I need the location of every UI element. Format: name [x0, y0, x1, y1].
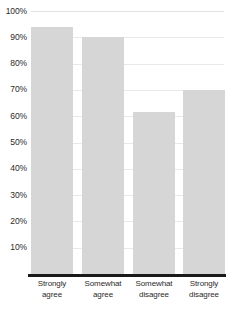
- x-tick-label-line1: Strongly: [24, 279, 80, 290]
- x-tick-label-line1: Strongly: [176, 279, 232, 290]
- y-tick-label: 50%: [0, 138, 27, 147]
- y-tick-label: 80%: [0, 59, 27, 68]
- bar-chart: 100% 90% 80% 70% 60% 50% 40% 30% 20% 10%…: [0, 0, 235, 310]
- x-axis-labels: Strongly agree Somewhat agree Somewhat d…: [31, 279, 224, 307]
- y-tick-label: 60%: [0, 112, 27, 121]
- x-tick-label-line1: Somewhat: [75, 279, 131, 290]
- y-axis-labels: 100% 90% 80% 70% 60% 50% 40% 30% 20% 10%: [0, 0, 27, 310]
- y-tick-label: 30%: [0, 191, 27, 200]
- y-tick-label: 20%: [0, 217, 27, 226]
- x-tick-label-line2: agree: [24, 290, 80, 301]
- bar-strongly-disagree: [183, 90, 225, 274]
- bar-somewhat-agree: [82, 37, 124, 274]
- bar-somewhat-disagree: [133, 112, 175, 274]
- x-tick-label-line2: disagree: [176, 290, 232, 301]
- x-tick-label-strongly-agree: Strongly agree: [24, 279, 80, 300]
- x-axis-line: [28, 274, 226, 277]
- x-tick-label-somewhat-agree: Somewhat agree: [75, 279, 131, 300]
- y-tick-label: 10%: [0, 243, 27, 252]
- y-tick-label: 70%: [0, 85, 27, 94]
- x-tick-label-line2: agree: [75, 290, 131, 301]
- x-tick-label-line2: disagree: [126, 290, 182, 301]
- x-tick-label-line1: Somewhat: [126, 279, 182, 290]
- y-tick-label: 40%: [0, 164, 27, 173]
- x-tick-label-strongly-disagree: Strongly disagree: [176, 279, 232, 300]
- y-tick-label: 90%: [0, 33, 27, 42]
- bar-strongly-agree: [31, 27, 73, 274]
- y-tick-label: 100%: [0, 7, 27, 16]
- bars-layer: [31, 0, 224, 274]
- x-tick-label-somewhat-disagree: Somewhat disagree: [126, 279, 182, 300]
